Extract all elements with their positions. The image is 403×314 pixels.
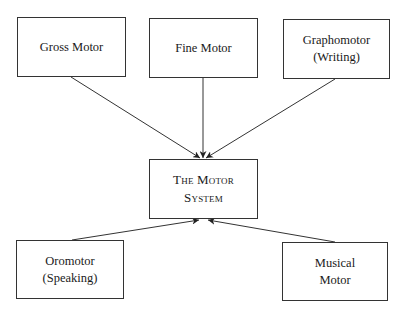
node-label-line2: Motor — [319, 272, 350, 289]
node-gross-motor: Gross Motor — [17, 17, 126, 77]
node-label-line1: Graphomotor — [303, 32, 370, 49]
edge-musical-to-center — [208, 220, 335, 242]
edge-grapho-to-center — [206, 79, 335, 158]
node-label-line1: Musical — [315, 255, 355, 272]
node-label: Gross Motor — [40, 39, 104, 56]
node-fine-motor: Fine Motor — [149, 18, 258, 78]
node-motor-system: The Motor System — [149, 159, 258, 219]
node-label-line1: The Motor — [173, 171, 234, 189]
edge-oro-to-center — [72, 220, 199, 240]
node-label-line2: System — [184, 189, 223, 207]
node-label-line2: (Writing) — [313, 49, 360, 66]
node-musical-motor: Musical Motor — [282, 242, 388, 301]
node-label: Fine Motor — [175, 40, 232, 57]
node-label-line2: (Speaking) — [43, 270, 98, 287]
node-label-line1: Oromotor — [45, 253, 94, 270]
node-oromotor: Oromotor (Speaking) — [16, 240, 124, 299]
node-graphomotor: Graphomotor (Writing) — [283, 19, 390, 79]
edge-gross-to-center — [71, 77, 200, 158]
